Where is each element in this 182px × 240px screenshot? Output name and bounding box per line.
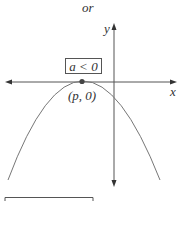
x-axis-left-arrow-icon [5, 80, 12, 85]
y-axis-down-arrow-icon [112, 180, 117, 187]
vertex-label: (p, 0) [68, 89, 96, 102]
x-axis-label: x [170, 85, 176, 98]
vertex-point [79, 79, 84, 84]
y-axis-label: y [104, 22, 110, 35]
y-axis-up-arrow-icon [112, 23, 117, 30]
bottom-label-box [5, 198, 93, 202]
condition-label-box: a < 0 [65, 58, 102, 74]
